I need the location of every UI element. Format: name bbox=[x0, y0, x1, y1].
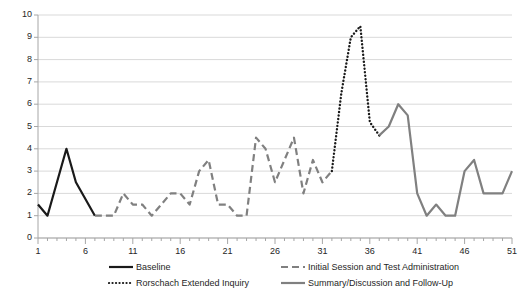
x-tick-label: 31 bbox=[307, 247, 337, 256]
x-tick-label: 26 bbox=[260, 247, 290, 256]
x-tick-label: 51 bbox=[497, 247, 520, 256]
legend-label: Rorschach Extended Inquiry bbox=[136, 278, 249, 288]
series-line-0 bbox=[38, 149, 95, 216]
y-tick-label: 0 bbox=[6, 233, 32, 242]
y-tick-label: 10 bbox=[6, 10, 32, 19]
legend-label: Baseline bbox=[136, 262, 171, 272]
y-tick-label: 1 bbox=[6, 211, 32, 220]
x-tick-label: 1 bbox=[23, 247, 53, 256]
y-tick-label: 5 bbox=[6, 122, 32, 131]
x-tick-label: 46 bbox=[450, 247, 480, 256]
legend-label: Initial Session and Test Administration bbox=[308, 262, 459, 272]
x-tick-label: 16 bbox=[165, 247, 195, 256]
x-tick-label: 6 bbox=[70, 247, 100, 256]
line-chart: 012345678910 16111621263136414651 Baseli… bbox=[0, 0, 520, 298]
legend-swatch-dotted bbox=[108, 278, 134, 288]
y-tick-label: 2 bbox=[6, 188, 32, 197]
series-line-1 bbox=[95, 138, 332, 216]
y-tick-label: 9 bbox=[6, 32, 32, 41]
y-tick-label: 3 bbox=[6, 166, 32, 175]
x-tick-label: 36 bbox=[355, 247, 385, 256]
chart-legend: BaselineInitial Session and Test Adminis… bbox=[0, 258, 520, 298]
legend-label: Summary/Discussion and Follow-Up bbox=[308, 278, 453, 288]
y-tick-label: 4 bbox=[6, 144, 32, 153]
series-line-2 bbox=[332, 26, 379, 171]
y-tick-label: 6 bbox=[6, 99, 32, 108]
legend-item[interactable]: Rorschach Extended Inquiry bbox=[108, 276, 249, 290]
x-tick-label: 21 bbox=[213, 247, 243, 256]
legend-item[interactable]: Summary/Discussion and Follow-Up bbox=[280, 276, 453, 290]
y-tick-label: 8 bbox=[6, 55, 32, 64]
x-tick-label: 41 bbox=[402, 247, 432, 256]
legend-swatch-solid bbox=[280, 278, 306, 288]
legend-item[interactable]: Initial Session and Test Administration bbox=[280, 260, 459, 274]
legend-swatch-solid bbox=[108, 262, 134, 272]
legend-item[interactable]: Baseline bbox=[108, 260, 171, 274]
y-tick-label: 7 bbox=[6, 77, 32, 86]
x-tick-label: 11 bbox=[118, 247, 148, 256]
series-line-3 bbox=[379, 104, 512, 216]
legend-swatch-dashed bbox=[280, 262, 306, 272]
